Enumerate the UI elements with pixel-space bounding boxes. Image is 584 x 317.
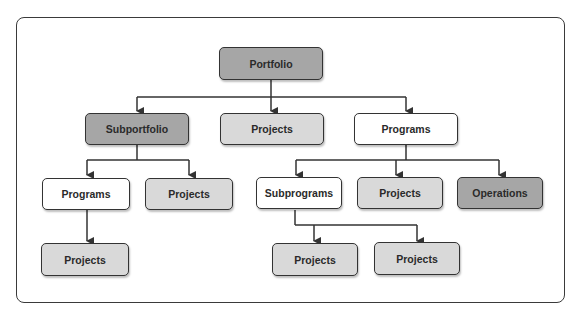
node-projects-right-mid: Projects [357, 177, 443, 209]
node-portfolio: Portfolio [219, 47, 323, 80]
node-projects-sub-1: Projects [272, 243, 358, 276]
node-programs-top: Programs [354, 113, 458, 145]
node-projects-left-mid: Projects [145, 178, 233, 210]
node-operations: Operations [457, 177, 543, 209]
node-projects-sub-2: Projects [374, 242, 460, 275]
node-programs-left: Programs [42, 178, 130, 210]
node-projects-top: Projects [220, 113, 324, 145]
node-subportfolio: Subportfolio [85, 113, 189, 145]
node-projects-left-bottom: Projects [41, 243, 129, 276]
node-subprograms: Subprograms [256, 177, 342, 209]
